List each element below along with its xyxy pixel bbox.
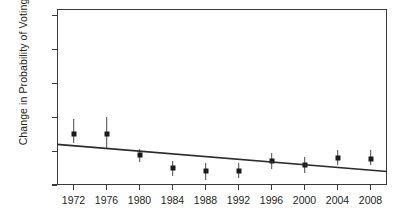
x-tick-mark [205, 185, 206, 190]
x-tick-mark [271, 185, 272, 190]
x-tick-mark [337, 185, 338, 190]
x-tick-mark [370, 185, 371, 190]
x-tick-mark [106, 185, 107, 190]
plot-area: 0.100.150.200.250.300.35 197219761980198… [57, 9, 387, 185]
x-tick-mark [139, 185, 140, 190]
x-tick-mark [73, 185, 74, 190]
trend-line [57, 9, 387, 185]
x-tick-mark [238, 185, 239, 190]
x-tick-mark [304, 185, 305, 190]
x-tick-label: 2008 [349, 194, 393, 206]
x-tick-mark [172, 185, 173, 190]
trend-line-segment [57, 144, 387, 171]
y-axis-label: Change in Probability of Voting [17, 0, 29, 162]
chart-figure: Change in Probability of Voting 0.100.15… [0, 0, 396, 215]
